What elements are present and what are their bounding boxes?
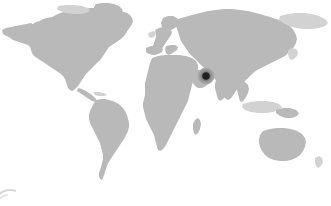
world-map-widget[interactable]: World map with a single location marker bbox=[0, 0, 331, 206]
landmass-south-america bbox=[89, 99, 129, 180]
landmass-central-america bbox=[77, 88, 97, 102]
landmass-caribbean bbox=[93, 92, 107, 96]
map-location-marker[interactable] bbox=[198, 68, 215, 85]
landmass-italy-balkans bbox=[165, 45, 178, 55]
landmass-new-zealand bbox=[315, 156, 323, 168]
landmass-new-guinea bbox=[276, 108, 299, 118]
landmass-africa bbox=[143, 55, 198, 151]
map-marker-core bbox=[203, 73, 210, 80]
landmass-iberia bbox=[146, 46, 163, 55]
landmass-australia bbox=[259, 128, 306, 161]
landmass-southeast-asia bbox=[236, 81, 249, 102]
world-map-basemap bbox=[0, 0, 331, 206]
landmass-madagascar bbox=[193, 118, 201, 135]
landmass-british-isles bbox=[148, 31, 156, 38]
landmass-japan bbox=[288, 48, 298, 60]
